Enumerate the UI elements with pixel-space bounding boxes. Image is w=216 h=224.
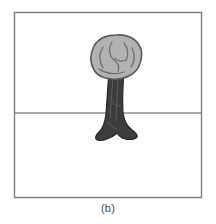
figure-caption: (b) — [0, 202, 216, 214]
figure-panel: (b) — [0, 0, 216, 224]
illustration-canvas — [0, 0, 216, 224]
